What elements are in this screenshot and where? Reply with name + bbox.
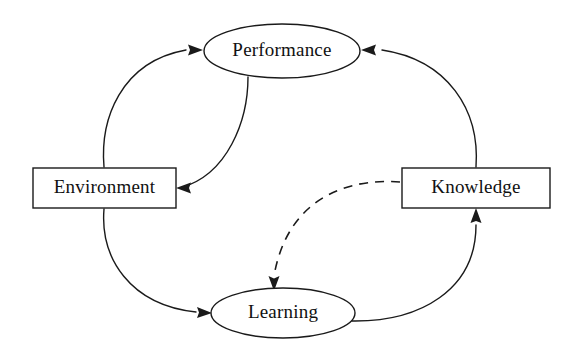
node-learning[interactable]: Learning <box>211 288 355 338</box>
edge-environment-to-learning <box>104 209 212 318</box>
edge-knowledge-to-learning-dashed <box>269 181 401 291</box>
edge-knowledge-to-learning-path <box>274 181 400 276</box>
node-knowledge[interactable]: Knowledge <box>402 168 550 208</box>
cycle-diagram: Performance Environment Knowledge Learni… <box>0 0 578 361</box>
edge-performance-to-environment <box>176 77 248 194</box>
node-environment-label: Environment <box>54 176 156 197</box>
edge-knowledge-to-performance-path <box>382 50 476 167</box>
edge-performance-to-environment-path <box>180 77 248 188</box>
edge-learning-to-knowledge <box>352 208 482 321</box>
diagram-canvas: Performance Environment Knowledge Learni… <box>0 0 578 361</box>
node-learning-label: Learning <box>248 301 318 322</box>
node-environment[interactable]: Environment <box>33 168 176 208</box>
node-performance[interactable]: Performance <box>204 24 360 78</box>
edge-environment-to-performance <box>104 45 203 168</box>
node-performance-label: Performance <box>232 39 331 60</box>
arrowhead-performance-right <box>361 45 376 56</box>
arrowhead-learning-left <box>197 307 212 318</box>
edge-learning-to-knowledge-path <box>352 225 476 321</box>
arrowhead-environment-right <box>176 183 191 194</box>
arrowhead-knowledge-bottom <box>471 208 482 223</box>
arrowhead-performance-left <box>188 45 203 56</box>
edge-knowledge-to-performance <box>361 45 476 168</box>
edge-environment-to-performance-path <box>104 50 186 167</box>
edge-environment-to-learning-path <box>104 209 196 312</box>
node-knowledge-label: Knowledge <box>431 176 520 197</box>
